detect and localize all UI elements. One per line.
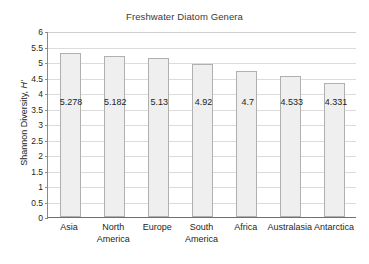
bar-value-label: 4.533 (281, 97, 304, 107)
y-axis-tick-mark (45, 187, 48, 188)
x-axis-tick-label: Africa (234, 222, 257, 234)
x-axis-tick-label: Europe (143, 222, 172, 234)
x-axis-tick-label: Asia (60, 222, 78, 234)
y-axis-tick-label: 0 (3, 213, 43, 223)
x-axis-tick-label: North America (97, 222, 130, 245)
bar-value-label: 5.13 (151, 97, 169, 107)
y-axis-tick-label: 2.5 (3, 136, 43, 146)
y-axis-tick-label: 0.5 (3, 198, 43, 208)
plot-area: 5.2785.1825.134.924.74.5334.331 (47, 32, 356, 218)
gridline (48, 48, 356, 49)
y-axis-tick-mark (45, 79, 48, 80)
y-axis-tick-label: 4 (3, 89, 43, 99)
y-axis-tick-label: 3 (3, 120, 43, 130)
y-axis-tick-label: 1.5 (3, 167, 43, 177)
y-axis-tick-mark (45, 110, 48, 111)
y-axis-tick-label: 6 (3, 27, 43, 37)
bar-value-label: 5.182 (104, 97, 127, 107)
y-axis-tick-label: 5 (3, 58, 43, 68)
x-axis-tick-label: South America (185, 222, 218, 245)
bar[interactable] (60, 53, 81, 217)
y-axis-tick-mark (45, 48, 48, 49)
y-axis-tick-mark (45, 218, 48, 219)
bar-value-label: 4.7 (241, 97, 254, 107)
y-axis-tick-mark (45, 32, 48, 33)
y-axis-tick-label: 4.5 (3, 74, 43, 84)
y-axis-tick-label: 3.5 (3, 105, 43, 115)
bar-chart-figure: Freshwater Diatom Genera Shannon Diversi… (0, 0, 369, 264)
y-axis-tick-label: 1 (3, 182, 43, 192)
x-axis-tick-label: Australasia (268, 222, 313, 234)
bar[interactable] (236, 71, 257, 217)
bar[interactable] (148, 58, 169, 217)
y-axis-tick-mark (45, 172, 48, 173)
y-axis-tick-mark (45, 203, 48, 204)
bar[interactable] (192, 64, 213, 217)
x-axis-tick-label: Antarctica (314, 222, 354, 234)
y-axis-tick-label: 5.5 (3, 43, 43, 53)
chart-title: Freshwater Diatom Genera (0, 11, 369, 22)
y-axis-tick-mark (45, 94, 48, 95)
y-axis-tick-mark (45, 141, 48, 142)
y-axis-tick-mark (45, 125, 48, 126)
y-axis-tick-mark (45, 156, 48, 157)
bar-value-label: 4.92 (195, 97, 213, 107)
gridline (48, 32, 356, 33)
bar-value-label: 5.278 (60, 97, 83, 107)
y-axis-tick-label: 2 (3, 151, 43, 161)
y-axis-tick-mark (45, 63, 48, 64)
bar[interactable] (104, 56, 125, 217)
bar-value-label: 4.331 (325, 97, 348, 107)
